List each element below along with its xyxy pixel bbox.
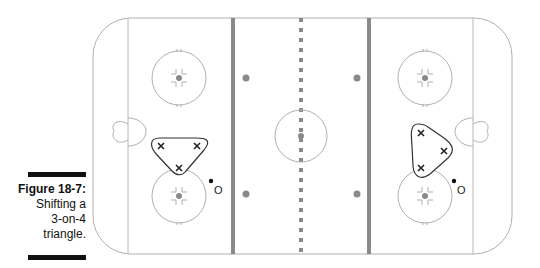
goal-crease-right <box>455 118 473 146</box>
neutral-dot <box>243 75 250 82</box>
hockey-rink-diagram: O O <box>0 0 540 268</box>
blue-line-right <box>367 18 371 254</box>
center-ice-dot <box>298 133 304 139</box>
neutral-dot <box>243 191 250 198</box>
neutral-dot <box>354 191 361 198</box>
goal-crease-left <box>128 118 146 146</box>
neutral-dot <box>354 75 361 82</box>
defender-puck-dot-left <box>209 179 213 183</box>
goal-crease-left-outer <box>113 122 128 143</box>
faceoff-circle-left-top <box>152 49 206 107</box>
triangle-formation-right <box>411 124 452 177</box>
defender-label-left: O <box>214 184 223 196</box>
faceoff-circle-right-top <box>398 49 452 107</box>
blue-line-left <box>231 18 235 254</box>
defender-label-right: O <box>457 184 466 196</box>
faceoff-circle-left-bottom <box>152 169 206 225</box>
goal-crease-right-outer <box>473 122 488 143</box>
defender-puck-dot-right <box>452 179 456 183</box>
